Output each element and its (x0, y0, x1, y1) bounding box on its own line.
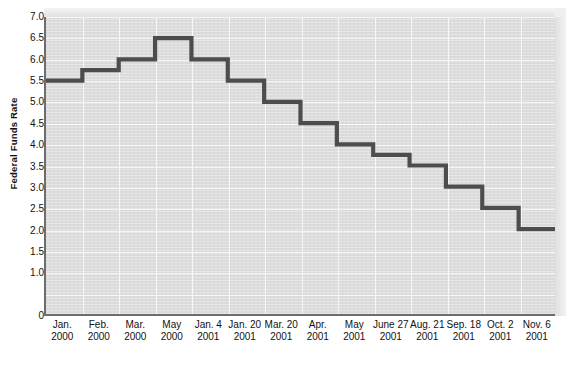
y-axis-tick-label: 1.0 (14, 268, 44, 278)
y-axis-tick-label: 5.5 (14, 76, 44, 86)
x-axis-tick-label-year: 2001 (513, 331, 562, 343)
x-axis-tick-label: Nov. 62001 (513, 319, 562, 342)
federal-funds-rate-step-line (46, 17, 555, 314)
y-axis-tick-label: 4.5 (14, 119, 44, 129)
x-axis-tick-labels: Jan.2000Feb.2000Mar.2000May2000Jan. 4200… (44, 319, 555, 363)
bevel-corner-face (555, 8, 566, 17)
bevel-top-face (44, 8, 566, 17)
y-axis-tick-label: 5.0 (14, 97, 44, 107)
y-axis-tick-label: 4.0 (14, 140, 44, 150)
y-axis-tick-label: 3.0 (14, 183, 44, 193)
bevel-right-face (555, 8, 566, 316)
x-axis-tick-label-period: Nov. 6 (513, 319, 562, 331)
y-axis-tick-label: 2.0 (14, 226, 44, 236)
y-axis-tick-label: 1.5 (14, 247, 44, 257)
y-axis-tick-label: 6.0 (14, 55, 44, 65)
y-axis-tick-labels: 01.01.52.02.53.03.54.04.55.05.56.06.57.0 (14, 0, 44, 330)
federal-funds-rate-chart: Federal Funds Rate 01.01.52.02.53.03.54.… (0, 0, 574, 365)
y-axis-tick-label: 3.5 (14, 162, 44, 172)
y-axis-tick-label: 6.5 (14, 33, 44, 43)
plot-area (44, 17, 555, 316)
y-axis-tick-label: 2.5 (14, 204, 44, 214)
plot-shell (44, 8, 566, 316)
y-axis-tick-label: 7.0 (14, 12, 44, 22)
